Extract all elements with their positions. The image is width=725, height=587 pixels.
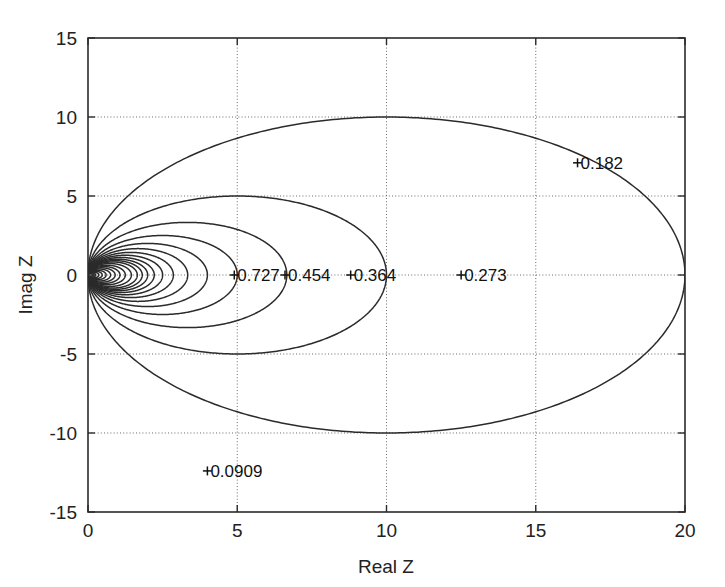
y-tick-label: 10: [56, 107, 77, 128]
x-tick-label: 15: [525, 520, 546, 541]
y-axis-tick-labels: -15-10-5051015: [50, 28, 77, 523]
x-tick-label: 5: [232, 520, 243, 541]
y-tick-label: 5: [66, 186, 77, 207]
x-tick-label: 0: [83, 520, 94, 541]
x-tick-label: 20: [674, 520, 695, 541]
contour-plot-figure: 0.09090.1820.2730.3640.4540.727 05101520…: [0, 0, 725, 587]
y-tick-label: 15: [56, 28, 77, 49]
x-axis-tick-labels: 05101520: [83, 520, 696, 541]
y-axis-title: Imag Z: [15, 255, 36, 315]
y-tick-label: 0: [66, 265, 77, 286]
x-tick-label: 10: [376, 520, 397, 541]
x-axis-title: Real Z: [358, 556, 414, 577]
contour-label-markers: [203, 158, 582, 475]
contour-level-label: 0.364: [354, 266, 397, 285]
contour-level-label: 0.0909: [210, 462, 262, 481]
y-tick-label: -15: [50, 502, 77, 523]
contour-level-label: 0.273: [464, 266, 507, 285]
plot-canvas: 0.09090.1820.2730.3640.4540.727 05101520…: [0, 0, 725, 587]
contour-level-label: 0.454: [288, 266, 331, 285]
contour-level-label: 0.727: [237, 266, 280, 285]
contour-level-label: 0.182: [581, 154, 624, 173]
y-tick-label: -5: [60, 344, 77, 365]
y-tick-label: -10: [50, 423, 77, 444]
